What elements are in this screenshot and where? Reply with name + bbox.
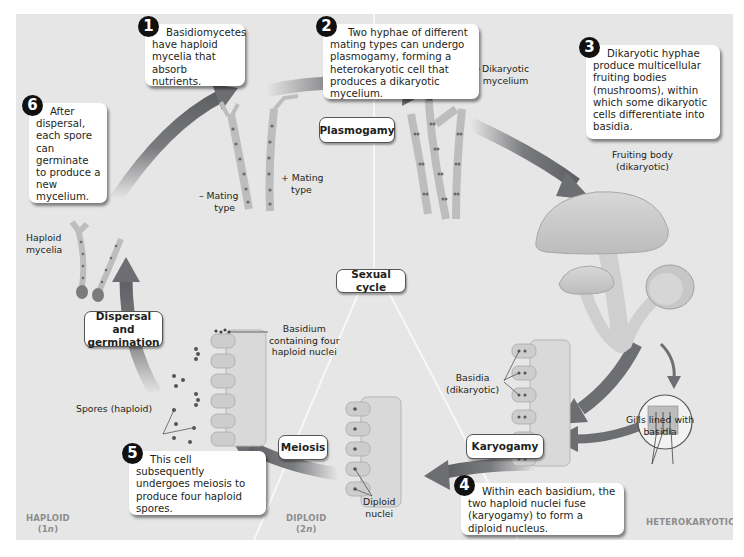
step-number-badge: 4 [454,475,475,496]
step-number-badge: 5 [122,443,143,464]
step-number-badge: 2 [316,16,337,37]
heterokaryotic-region-label: HETEROKARYOTIC [646,517,733,528]
step-2-text: Two hyphae of different mating types can… [330,27,473,100]
step-4-text: Within each basidium, the two haploid nu… [468,486,618,535]
step-3-callout: 3 Dikaryotic hyphae produce multicellula… [586,45,720,139]
dispersal-label-line1: Dispersal and [85,310,162,336]
step-1-callout: 1 Basidiomycetes have haploid mycelia th… [145,24,245,86]
dikaryotic-mycelium-label: Dikaryotic mycelium [482,63,529,86]
basidium-four-nuclei-cluster [211,328,268,446]
diploid-basidia-cluster [346,397,401,507]
gills-label: Gills lined with basidia [626,414,694,437]
dispersal-germination-stage: Dispersal and germination [84,311,163,347]
diploid-nuclei-label: Diploid nuclei [363,496,395,519]
diploid-region-label: DIPLOID (2n) [286,513,326,535]
step-5-text: This cell subsequently undergoes meiosis… [136,454,260,515]
haploid-region-label: HAPLOID (1n) [26,513,70,535]
step-number-badge: 1 [138,16,159,37]
step-number-badge: 6 [22,95,43,116]
step-4-callout: 4 Within each basidium, the two haploid … [461,483,624,535]
meiosis-stage: Meiosis [278,435,328,460]
plus-mating-type-label: + Mating type [281,172,324,195]
haploid-mycelia-label: Haploid mycelia [26,232,62,255]
plasmogamy-stage: Plasmogamy [319,117,395,143]
step-6-callout: 6 After dispersal, each spore can germin… [29,103,107,203]
step-1-text: Basidiomycetes have haploid mycelia that… [152,27,239,88]
step-5-callout: 5 This cell subsequently undergoes meios… [129,451,266,515]
karyogamy-stage: Karyogamy [466,434,544,459]
fruiting-body-label: Fruiting body (dikaryotic) [612,149,673,172]
diagram-panel: 1 Basidiomycetes have haploid mycelia th… [16,14,733,540]
basidium-four-nuclei-label: Basidium containing four haploid nuclei [269,323,340,358]
sexual-cycle-label: Sexual cycle [336,269,406,293]
step-6-text: After dispersal, each spore can germinat… [36,106,101,204]
step-number-badge: 3 [579,37,600,58]
spores [163,347,200,444]
haploid-mycelia [72,222,121,302]
minus-mating-type-label: – Mating type [199,190,238,213]
step-3-text: Dikaryotic hyphae produce multicellular … [593,48,714,133]
spores-label: Spores (haploid) [76,403,152,415]
basidia-dikaryotic-label: Basidia (dikaryotic) [446,372,499,395]
dispersal-label-line2: germination [87,336,159,349]
step-2-callout: 2 Two hyphae of different mating types c… [323,24,479,99]
mushroom-fruiting-body [536,192,694,344]
